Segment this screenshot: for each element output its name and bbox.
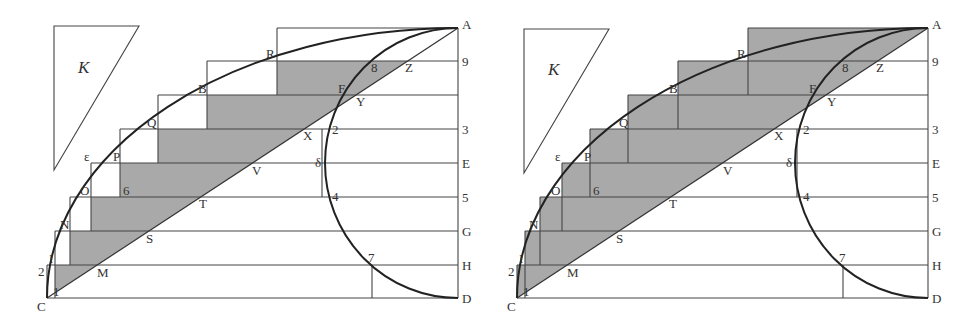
label-9: 9 — [932, 54, 939, 69]
label-i: I — [49, 251, 53, 266]
label-7: 7 — [368, 250, 375, 265]
label-c: C — [37, 299, 46, 314]
diagram-canvas: K A 9 3 E 5 G H D R 8 Z F Y B Q X 2 ε P … — [0, 0, 973, 328]
label-r: R — [737, 46, 746, 61]
label-1: 1 — [523, 284, 530, 299]
label-5: 5 — [462, 190, 469, 205]
label-q: Q — [619, 115, 629, 130]
label-k: K — [547, 60, 561, 79]
left-figure: K A 9 3 E 5 G H D R 8 Z F Y B Q X 2 ε P … — [37, 17, 472, 314]
label-z: Z — [405, 60, 413, 75]
label-3: 3 — [932, 122, 939, 137]
label-z: Z — [876, 60, 884, 75]
label-g: G — [462, 224, 471, 239]
label-1: 1 — [53, 284, 60, 299]
label-e: E — [462, 156, 470, 171]
label-g: G — [932, 224, 941, 239]
label-d: D — [462, 291, 471, 306]
label-b: B — [669, 81, 678, 96]
label-epsilon: ε — [84, 149, 90, 164]
label-b: B — [198, 81, 207, 96]
label-y: Y — [356, 94, 366, 109]
label-f: F — [338, 81, 345, 96]
label-q: Q — [147, 115, 157, 130]
label-2-left: 2 — [38, 264, 45, 279]
label-f: F — [809, 81, 816, 96]
label-delta: δ — [315, 155, 321, 170]
label-x: X — [303, 128, 313, 143]
label-delta: δ — [786, 155, 792, 170]
label-c: C — [507, 299, 516, 314]
label-h: H — [462, 258, 471, 273]
label-y: Y — [827, 94, 837, 109]
label-d: D — [932, 291, 941, 306]
label-epsilon: ε — [555, 149, 561, 164]
right-figure: K A 9 3 E 5 G H D R 8 Z F Y B Q X 2 ε P … — [507, 17, 942, 314]
label-8: 8 — [842, 60, 849, 75]
k-triangle — [54, 26, 139, 170]
label-p: P — [113, 149, 120, 164]
label-8: 8 — [371, 60, 378, 75]
label-n: N — [60, 217, 70, 232]
label-i: I — [519, 251, 523, 266]
label-2-top: 2 — [803, 122, 810, 137]
label-p: P — [584, 149, 591, 164]
label-t: T — [199, 196, 207, 211]
label-6: 6 — [123, 183, 130, 198]
label-4: 4 — [332, 189, 339, 204]
label-k: K — [77, 58, 91, 77]
label-6: 6 — [593, 183, 600, 198]
label-o: O — [80, 183, 89, 198]
label-s: S — [146, 231, 153, 246]
label-h: H — [932, 258, 941, 273]
label-s: S — [616, 231, 623, 246]
label-a: A — [462, 17, 472, 32]
label-v: V — [723, 163, 733, 178]
label-5: 5 — [932, 190, 939, 205]
label-4: 4 — [803, 189, 810, 204]
label-v: V — [252, 163, 262, 178]
label-3: 3 — [462, 122, 469, 137]
label-m: M — [97, 265, 109, 280]
label-2-left: 2 — [508, 264, 515, 279]
label-e: E — [932, 156, 940, 171]
label-t: T — [669, 196, 677, 211]
label-9: 9 — [462, 54, 469, 69]
label-a: A — [932, 17, 942, 32]
label-o: O — [551, 183, 560, 198]
label-2-top: 2 — [332, 122, 339, 137]
label-x: X — [774, 128, 784, 143]
label-r: R — [266, 46, 275, 61]
label-n: N — [529, 217, 539, 232]
label-m: M — [567, 265, 579, 280]
left-shaded-region — [55, 61, 458, 298]
label-7: 7 — [839, 250, 846, 265]
